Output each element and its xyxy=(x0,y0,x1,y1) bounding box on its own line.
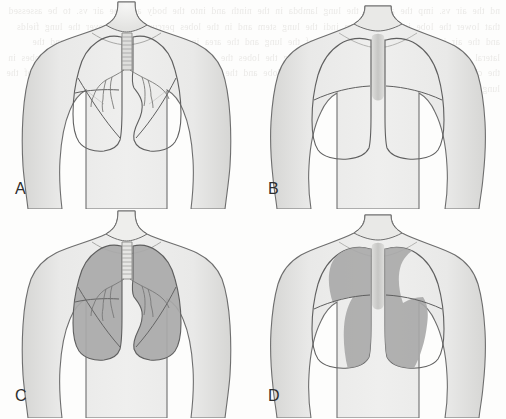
panel-b-posterior-unshaded xyxy=(253,0,506,209)
panel-label-b: B xyxy=(268,180,279,198)
neck-c xyxy=(106,211,147,241)
vertebral-column-d xyxy=(371,243,386,310)
trachea-c xyxy=(122,242,132,279)
nape-b xyxy=(354,6,402,31)
panel-label-c: C xyxy=(15,387,27,405)
trachea-a xyxy=(122,33,132,70)
panel-label-a: A xyxy=(15,180,26,198)
panel-d-posterior-shaded xyxy=(253,209,506,418)
lung-projection-figure: nd the air vs. imp the area of the lung … xyxy=(0,0,506,419)
right-lung-shaded-band-d xyxy=(329,245,371,373)
panel-a-anterior-unshaded xyxy=(0,0,253,209)
panel-label-d: D xyxy=(268,387,280,405)
vertebral-column-b xyxy=(371,34,386,101)
panel-c-anterior-shaded xyxy=(0,209,253,418)
neck-a xyxy=(106,2,147,32)
nape-d xyxy=(354,215,402,240)
